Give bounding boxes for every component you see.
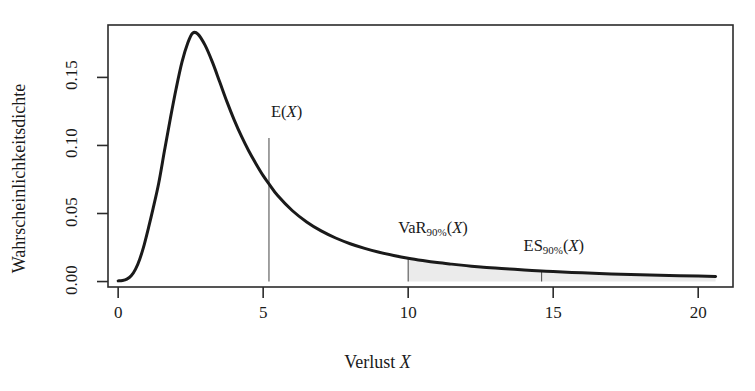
annotation-label-base: E( — [271, 102, 287, 121]
y-tick-label-text: 0.10 — [62, 129, 82, 159]
y-tick-label-0.15: 0.15 — [49, 65, 95, 85]
annotation-label-subscript: 90% — [427, 226, 447, 238]
annotation-label-base: ES — [524, 236, 543, 255]
y-tick-label-text: 0.00 — [62, 265, 82, 295]
annotation-label-subscript: 90% — [543, 244, 563, 256]
annotation-label-variable: X — [569, 236, 579, 255]
x-tick-label-5: 5 — [243, 303, 283, 323]
density-plot-svg — [0, 0, 755, 391]
shaded-tail-region — [408, 258, 715, 281]
annotation-label-value-at-risk: VaR90%(X) — [398, 218, 468, 238]
x-tick-label-15: 15 — [533, 303, 573, 323]
x-tick-label-20: 20 — [678, 303, 718, 323]
density-curve — [118, 32, 715, 281]
y-tick-label-0.05: 0.05 — [49, 202, 95, 222]
annotation-label-expected-loss: E(X) — [271, 102, 302, 122]
y-tick-label-text: 0.05 — [62, 197, 82, 227]
annotation-label-base: VaR — [398, 218, 426, 237]
x-axis-title-text: Verlust — [344, 352, 400, 372]
y-tick-label-text: 0.15 — [62, 61, 82, 91]
x-axis-title: Verlust X — [0, 352, 755, 373]
chart-figure: Wahrscheinlichkeitsdichte 0.000.050.100.… — [0, 0, 755, 391]
y-tick-label-0.10: 0.10 — [49, 133, 95, 153]
annotation-label-paren: ) — [462, 218, 468, 237]
x-tick-label-0: 0 — [98, 303, 138, 323]
annotation-label-variable: X — [452, 218, 462, 237]
annotation-label-variable: X — [287, 102, 297, 121]
y-tick-label-0.00: 0.00 — [49, 270, 95, 290]
annotation-label-expected-shortfall: ES90%(X) — [524, 236, 585, 256]
annotation-label-paren: ) — [579, 236, 585, 255]
x-axis-title-variable: X — [400, 352, 411, 372]
x-tick-label-10: 10 — [388, 303, 428, 323]
annotation-label-paren: ) — [297, 102, 303, 121]
plot-frame — [108, 25, 733, 287]
